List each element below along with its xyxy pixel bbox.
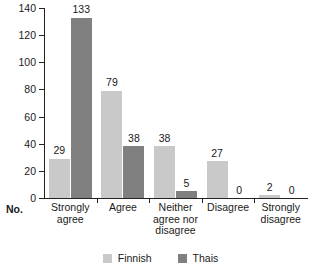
- y-axis-unit-label: No.: [6, 203, 23, 215]
- bar-finnish-3: 27: [207, 8, 228, 198]
- bar-value-label: 0: [289, 185, 295, 196]
- y-axis-tick-label: 80: [24, 84, 36, 95]
- y-axis-tick: [39, 35, 44, 36]
- y-axis-tick: [39, 171, 44, 172]
- legend-label: Thais: [193, 253, 219, 264]
- x-axis-category-label: Stronglydisagree: [254, 202, 307, 225]
- category-label-line: Neither: [149, 202, 202, 214]
- bar-rect: [207, 161, 228, 198]
- category-label-line: disagree: [149, 225, 202, 237]
- bar-rect: [176, 191, 197, 198]
- bar-thais-3: 0: [229, 8, 250, 198]
- x-axis-category-label: Agree: [97, 202, 150, 214]
- square-swatch-dark-icon: [178, 254, 187, 263]
- category-label-line: Disagree: [202, 202, 255, 214]
- bar-thais-0: 133: [71, 8, 92, 198]
- bar-rect: [49, 159, 70, 198]
- square-swatch-light-icon: [103, 254, 112, 263]
- plot-area: 02040608010012014029133793838527020: [44, 8, 307, 198]
- x-axis-category-label: Stronglyagree: [44, 202, 97, 225]
- bar-finnish-4: 2: [259, 8, 280, 198]
- y-axis-tick: [39, 144, 44, 145]
- bar-value-label: 29: [53, 145, 65, 156]
- y-axis-tick: [39, 62, 44, 63]
- bar-value-label: 133: [73, 4, 91, 15]
- category-label-line: agree: [44, 214, 97, 226]
- y-axis-tick-label: 40: [24, 138, 36, 149]
- bar-value-label: 27: [211, 148, 223, 159]
- bar-rect: [71, 18, 92, 199]
- bar-finnish-2: 38: [154, 8, 175, 198]
- y-axis-tick-label: 140: [18, 3, 36, 14]
- legend-item-finnish: Finnish: [103, 253, 152, 264]
- category-label-line: Strongly: [254, 202, 307, 214]
- bar-thais-1: 38: [123, 8, 144, 198]
- y-axis-tick-label: 120: [18, 30, 36, 41]
- bar-value-label: 38: [128, 133, 140, 144]
- y-axis-tick: [39, 89, 44, 90]
- y-axis-tick: [39, 198, 44, 199]
- bar-rect: [259, 195, 280, 198]
- category-label-line: Strongly: [44, 202, 97, 214]
- bar-value-label: 2: [267, 182, 273, 193]
- y-axis-tick: [39, 8, 44, 9]
- category-label-line: disagree: [254, 214, 307, 226]
- y-axis-tick-label: 100: [18, 57, 36, 68]
- bar-value-label: 79: [106, 77, 118, 88]
- y-axis-tick-label: 0: [30, 193, 36, 204]
- x-axis-category-label: Neitheragree nordisagree: [149, 202, 202, 237]
- y-axis-tick-label: 20: [24, 166, 36, 177]
- bar-value-label: 38: [159, 133, 171, 144]
- bar-rect: [123, 146, 144, 198]
- grouped-bar-chart: 02040608010012014029133793838527020 No. …: [0, 0, 321, 279]
- bar-finnish-1: 79: [101, 8, 122, 198]
- legend-label: Finnish: [118, 253, 152, 264]
- bar-finnish-0: 29: [49, 8, 70, 198]
- bar-rect: [101, 91, 122, 198]
- chart-legend: FinnishThais: [0, 253, 321, 264]
- x-axis-category-label: Disagree: [202, 202, 255, 214]
- category-label-line: Agree: [97, 202, 150, 214]
- legend-item-thais: Thais: [178, 253, 219, 264]
- bar-value-label: 0: [236, 185, 242, 196]
- y-axis-tick-label: 60: [24, 111, 36, 122]
- bar-rect: [154, 146, 175, 198]
- bar-thais-4: 0: [281, 8, 302, 198]
- bar-thais-2: 5: [176, 8, 197, 198]
- x-axis-line: [44, 198, 308, 199]
- bar-value-label: 5: [184, 178, 190, 189]
- y-axis-tick: [39, 117, 44, 118]
